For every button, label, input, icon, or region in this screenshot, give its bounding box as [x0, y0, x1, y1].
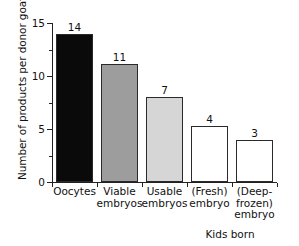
bar: 4 — [191, 126, 228, 182]
y-tick-minor — [49, 156, 52, 157]
bar-value-label: 7 — [161, 84, 168, 96]
y-axis-line — [52, 23, 53, 182]
y-tick-major — [47, 76, 52, 77]
y-tick-major — [47, 23, 52, 24]
bar: 14 — [56, 34, 93, 182]
x-category-label: (Deep-frozen)embryo — [228, 186, 281, 221]
bar: 3 — [236, 140, 273, 182]
y-tick-label: 5 — [38, 123, 45, 135]
group-annotation-kids-born: Kids born — [170, 228, 290, 240]
y-tick-label: 15 — [32, 17, 45, 29]
x-axis-line — [52, 182, 277, 183]
x-category-label-line: (Deep- — [228, 186, 281, 198]
y-tick-major — [47, 129, 52, 130]
bar-value-label: 14 — [68, 21, 81, 33]
x-category-label-line: embryo — [228, 209, 281, 221]
bar: 7 — [146, 97, 183, 182]
bar: 11 — [101, 64, 138, 182]
y-tick-label: 0 — [38, 176, 45, 188]
y-tick-minor — [49, 103, 52, 104]
bar-value-label: 4 — [206, 113, 213, 125]
bar-value-label: 3 — [251, 127, 258, 139]
bar-value-label: 11 — [113, 51, 126, 63]
y-tick-minor — [49, 50, 52, 51]
plot-area: 051015 1411743 — [52, 18, 277, 182]
bar-chart-figure: Number of products per donor goat 051015… — [0, 0, 299, 246]
y-tick-label: 10 — [32, 70, 45, 82]
y-axis-title: Number of products per donor goat — [16, 0, 28, 180]
